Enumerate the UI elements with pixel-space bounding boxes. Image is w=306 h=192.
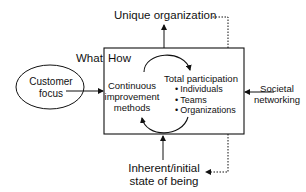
- bottom-dotted-feedback-line: [206, 134, 228, 172]
- societal-networking-label: Societal networking: [253, 83, 301, 105]
- bullet-individuals: Individuals: [175, 84, 238, 95]
- total-participation-title: Total participation: [164, 73, 238, 84]
- continuous-improvement-label: Continuous improvement methods: [104, 80, 160, 113]
- what-label: What: [76, 52, 103, 65]
- bullet-teams: Teams: [175, 95, 238, 106]
- cycle-arrow-top: [144, 55, 190, 72]
- how-label: How: [108, 52, 131, 65]
- customer-focus-label: Customer focus: [28, 76, 74, 100]
- bullet-organizations: Organizations: [175, 105, 238, 116]
- cycle-arrow-bottom: [142, 117, 188, 133]
- inherent-state-label: Inherent/initial state of being: [124, 162, 204, 188]
- total-participation-block: Total participation Individuals Teams Or…: [164, 73, 238, 116]
- unique-organization-label: Unique organization: [114, 9, 216, 22]
- participation-bullets: Individuals Teams Organizations: [175, 84, 238, 116]
